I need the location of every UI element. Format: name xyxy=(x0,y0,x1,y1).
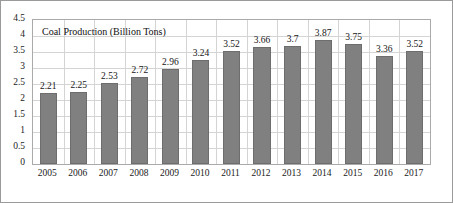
y-axis-tick-label: 0.5 xyxy=(13,142,25,152)
bar-slot xyxy=(369,20,400,164)
bar[interactable] xyxy=(253,47,270,164)
bar-slot xyxy=(186,20,217,164)
y-axis-tick-label: 4 xyxy=(20,30,25,40)
bar-chart-figure: 00.511.522.533.544.5 2.212.252.532.722.9… xyxy=(0,0,453,203)
chart-title: Coal Production (Billion Tons) xyxy=(42,27,166,37)
bar-slot xyxy=(338,20,369,164)
x-axis-tick-label: 2014 xyxy=(313,169,332,179)
y-axis-tick-label: 1 xyxy=(20,126,25,136)
x-axis-tick-label: 2011 xyxy=(221,169,240,179)
bars-layer xyxy=(33,20,430,164)
x-axis-tick-label: 2005 xyxy=(38,169,57,179)
bar-slot xyxy=(277,20,308,164)
plot-area: 2.212.252.532.722.963.243.523.663.73.873… xyxy=(32,19,431,165)
bar[interactable] xyxy=(192,60,209,164)
x-axis-tick-label: 2008 xyxy=(129,169,148,179)
x-axis-tick-label: 2013 xyxy=(282,169,301,179)
bar[interactable] xyxy=(315,40,332,164)
x-axis-tick-label: 2012 xyxy=(252,169,271,179)
bar-slot xyxy=(94,20,125,164)
x-axis-tick-label: 2015 xyxy=(343,169,362,179)
bar[interactable] xyxy=(284,46,301,164)
bar[interactable] xyxy=(131,77,148,164)
bar-slot xyxy=(33,20,64,164)
x-axis-tick-label: 2016 xyxy=(374,169,393,179)
y-axis-tick-label: 3 xyxy=(20,62,25,72)
bar[interactable] xyxy=(376,56,393,164)
bar[interactable] xyxy=(223,51,240,164)
bar[interactable] xyxy=(162,69,179,164)
x-axis-tick-label: 2009 xyxy=(160,169,179,179)
y-axis-tick-label: 2.5 xyxy=(13,78,25,88)
y-axis-tick-label: 4.5 xyxy=(13,14,25,24)
bar-slot xyxy=(308,20,339,164)
bar-slot xyxy=(64,20,95,164)
bar-slot xyxy=(125,20,156,164)
bar-slot xyxy=(247,20,278,164)
x-axis-tick-label: 2017 xyxy=(404,169,423,179)
x-axis-tick-label: 2010 xyxy=(190,169,209,179)
bar[interactable] xyxy=(40,93,57,164)
y-axis: 00.511.522.533.544.5 xyxy=(1,1,29,163)
bar[interactable] xyxy=(345,44,362,164)
bar-slot xyxy=(399,20,430,164)
x-axis: 2005200620072008200920102011201220132014… xyxy=(32,169,431,185)
bar-slot xyxy=(155,20,186,164)
y-axis-tick-label: 0 xyxy=(20,158,25,168)
bar[interactable] xyxy=(406,51,423,164)
bar[interactable] xyxy=(70,92,87,164)
y-axis-tick-label: 3.5 xyxy=(13,46,25,56)
y-axis-tick-label: 2 xyxy=(20,94,25,104)
x-axis-tick-label: 2007 xyxy=(99,169,118,179)
bar[interactable] xyxy=(101,83,118,164)
bar-slot xyxy=(216,20,247,164)
y-axis-tick-label: 1.5 xyxy=(13,110,25,120)
x-axis-tick-label: 2006 xyxy=(68,169,87,179)
